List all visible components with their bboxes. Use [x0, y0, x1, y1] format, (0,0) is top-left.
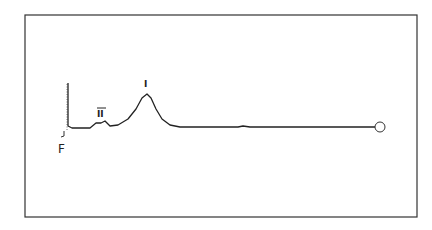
- end-marker-circle: [375, 122, 385, 132]
- figure-border: [25, 15, 417, 217]
- start-tick: [61, 131, 64, 137]
- chromatogram-trace: [68, 83, 375, 128]
- minor-peak-label: II: [97, 109, 104, 119]
- figure-canvas: F II I: [0, 0, 432, 230]
- start-marker-label: F: [58, 142, 65, 156]
- major-peak-label: I: [144, 79, 147, 89]
